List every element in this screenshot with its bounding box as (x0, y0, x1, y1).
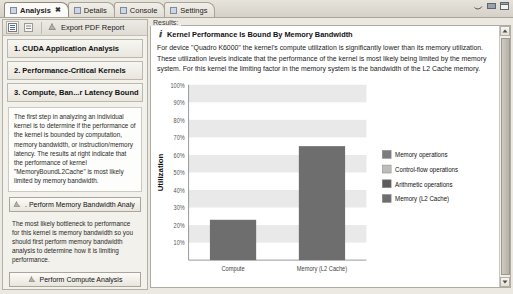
export-pdf-report-button[interactable]: Export PDF Report (48, 22, 124, 33)
section-2-label: 2. Performance-Critical Kernels (14, 66, 126, 75)
y-tick-label: 60% (174, 152, 186, 158)
results-inner: ⅈ Kernel Performance Is Bound By Memory … (151, 26, 499, 287)
y-tick-label: 90% (174, 100, 186, 106)
section-1-label: 1. CUDA Application Analysis (14, 44, 119, 53)
collapse-all-icon[interactable] (6, 21, 19, 34)
tab-details-label: Details (84, 6, 107, 15)
scroll-up-icon[interactable] (500, 26, 510, 36)
y-tick-label: 20% (174, 223, 186, 229)
grid-band (189, 120, 367, 138)
scrollbar-thumb[interactable] (501, 38, 510, 275)
y-axis-title: Utilization (156, 153, 164, 191)
legend-swatch (382, 180, 391, 188)
legend-label: Memory (L2 Cache) (395, 195, 449, 204)
tab-console-label: Console (130, 6, 158, 15)
tab-analysis[interactable]: Analysis ✖ (4, 2, 69, 17)
results-panel: Results: ⅈ Kernel Performance Is Bound B… (150, 19, 511, 290)
analysis-stages-scroll[interactable]: 1. CUDA Application Analysis 2. Performa… (3, 36, 147, 289)
minimize-icon[interactable] (487, 2, 496, 10)
tab-details[interactable]: Details (68, 2, 115, 17)
results-body-text: For device "Quadro K6000" the kernel's c… (157, 43, 493, 75)
x-tick-label: Compute (221, 265, 245, 272)
tab-analysis-label: Analysis (20, 6, 51, 15)
maximize-icon[interactable] (500, 2, 509, 10)
sidebar-item-cuda-application-analysis[interactable]: 1. CUDA Application Analysis (7, 39, 143, 58)
perform-memory-bandwidth-analysis-button[interactable]: . Perform Memory Bandwidth Analy (9, 197, 141, 212)
results-vertical-scrollbar[interactable] (499, 26, 510, 287)
bar[interactable] (299, 146, 345, 260)
legend-swatch (382, 165, 391, 173)
console-icon (120, 7, 127, 14)
y-tick-label: 10% (174, 240, 186, 246)
bar[interactable] (210, 220, 256, 260)
info-icon: ⅈ (157, 30, 162, 38)
sidebar-item-compute-bandwidth-latency-bound[interactable]: 3. Compute, Ban...r Latency Bound (7, 83, 143, 102)
y-tick-label: 70% (174, 135, 186, 141)
close-icon[interactable]: ✖ (55, 6, 61, 14)
details-icon (74, 7, 81, 14)
perform-compute-analysis-label: Perform Compute Analysis (40, 276, 123, 283)
x-tick-label: Memory (L2 Cache) (297, 265, 347, 272)
window-controls (474, 2, 509, 10)
legend-label: Memory operations (395, 151, 448, 160)
legend-label: Arithmetic operations (395, 180, 453, 189)
section-3-label: 3. Compute, Ban...r Latency Bound (14, 88, 139, 97)
analysis-left-panel: Export PDF Report 1. CUDA Application An… (2, 19, 148, 290)
tab-console[interactable]: Console (114, 2, 166, 17)
results-title: Kernel Performance Is Bound By Memory Ba… (167, 30, 353, 39)
legend-swatch (382, 150, 391, 158)
analysis-icon (10, 7, 17, 14)
sidebar-item-performance-critical-kernels[interactable]: 2. Performance-Critical Kernels (7, 61, 143, 80)
chart-svg: 100%90%80%70%60%50%40%30%20%10%Utilizati… (153, 78, 486, 285)
y-tick-label: 100% (170, 82, 185, 88)
legend-label: Control-flow operations (395, 165, 459, 174)
utilization-bar-chart: 100%90%80%70%60%50%40%30%20%10%Utilizati… (153, 78, 486, 285)
nvidia-visual-profiler-window: Analysis ✖ Details Console Settings (0, 0, 513, 294)
perform-memory-bandwidth-analysis-label: . Perform Memory Bandwidth Analy (25, 201, 135, 208)
analysis-toolbar: Export PDF Report (3, 20, 147, 36)
grid-band (189, 85, 367, 103)
results-group-label: Results: (150, 19, 181, 26)
results-content-box: ⅈ Kernel Performance Is Bound By Memory … (150, 25, 511, 288)
analysis-description-text: The first step in analyzing an individua… (8, 107, 142, 192)
toolbar-separator (41, 22, 42, 34)
results-title-row: ⅈ Kernel Performance Is Bound By Memory … (157, 30, 493, 39)
run-analysis-icon (13, 200, 21, 209)
run-analysis-icon (28, 275, 36, 284)
perform-compute-analysis-button[interactable]: Perform Compute Analysis (9, 272, 141, 287)
restore-down-icon[interactable] (474, 2, 483, 10)
y-tick-label: 30% (174, 205, 186, 211)
y-tick-label: 80% (174, 117, 186, 123)
main-body: Export PDF Report 1. CUDA Application An… (0, 18, 513, 294)
legend-swatch (382, 195, 391, 203)
y-tick-label: 40% (174, 187, 186, 193)
expand-all-icon[interactable] (22, 21, 35, 34)
analysis-hint-text: The most likely bottleneck to performanc… (8, 217, 142, 267)
settings-icon (170, 7, 177, 14)
export-pdf-icon (48, 22, 57, 33)
scroll-down-icon[interactable] (500, 277, 510, 287)
tab-settings[interactable]: Settings (164, 2, 215, 17)
y-tick-label: 50% (174, 170, 186, 176)
export-pdf-report-label: Export PDF Report (61, 23, 124, 32)
tab-bar: Analysis ✖ Details Console Settings (0, 0, 513, 18)
tab-settings-label: Settings (180, 6, 207, 15)
